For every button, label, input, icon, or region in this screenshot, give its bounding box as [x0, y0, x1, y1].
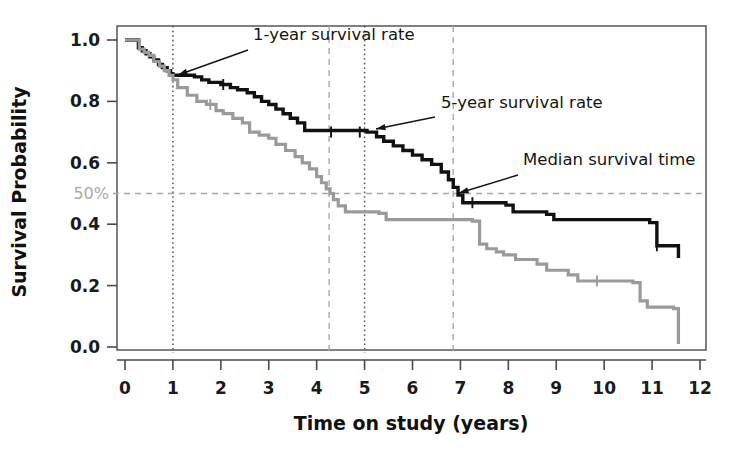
x-tick-label: 8 [502, 378, 514, 398]
figure-background [0, 0, 744, 458]
y-tick-label: 1.0 [70, 30, 100, 50]
x-tick-label: 1 [167, 378, 179, 398]
y-tick-label: 0.2 [70, 276, 100, 296]
y-tick-label: 0.8 [70, 91, 100, 111]
kaplan-meier-plot: 0123456789101112 0.00.20.40.60.81.0 1-ye… [0, 0, 744, 458]
x-tick-label: 11 [640, 378, 664, 398]
x-tick-label: 0 [119, 378, 131, 398]
x-tick-label: 7 [454, 378, 466, 398]
x-tick-label: 6 [407, 378, 419, 398]
x-axis-label: Time on study (years) [294, 412, 529, 434]
survival-curve-figure: 0123456789101112 0.00.20.40.60.81.0 1-ye… [0, 0, 744, 458]
x-tick-label: 2 [215, 378, 227, 398]
median-survival-time-label: Median survival time [523, 150, 695, 169]
y-tick-label: 0.6 [70, 153, 100, 173]
x-tick-label: 4 [311, 378, 323, 398]
x-tick-label: 12 [688, 378, 712, 398]
x-tick-label: 5 [359, 378, 371, 398]
x-tick-label: 9 [550, 378, 562, 398]
y-axis-label: Survival Probability [8, 86, 30, 298]
one-year-survival-rate-label: 1-year survival rate [253, 25, 415, 44]
fifty-percent-label: 50% [73, 184, 109, 203]
y-tick-label: 0.0 [70, 337, 100, 357]
y-tick-label: 0.4 [70, 214, 100, 234]
five-year-survival-rate-label: 5-year survival rate [441, 93, 603, 112]
x-tick-label: 10 [592, 378, 616, 398]
x-tick-label: 3 [263, 378, 275, 398]
